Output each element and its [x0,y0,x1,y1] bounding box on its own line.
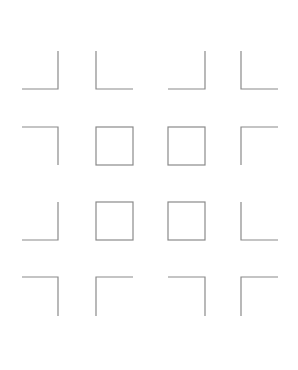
corner-top-left-shape [241,127,278,165]
square-shape [168,127,205,165]
corner-top-right-shape [22,127,58,165]
corner-bottom-right-shape [22,51,58,89]
corner-top-right-shape [22,277,58,316]
corner-top-left-shape [241,277,278,316]
corner-top-left-shape [96,277,133,316]
corner-bottom-left-shape [96,51,133,89]
corner-bottom-right-shape [22,202,58,240]
corner-bottom-left-shape [241,202,278,240]
corner-top-right-shape [168,277,205,316]
square-corner-pattern-diagram [0,0,298,370]
square-shape [96,202,133,240]
square-shape [96,127,133,165]
square-shape [168,202,205,240]
corner-bottom-right-shape [168,51,205,89]
corner-bottom-left-shape [241,51,278,89]
